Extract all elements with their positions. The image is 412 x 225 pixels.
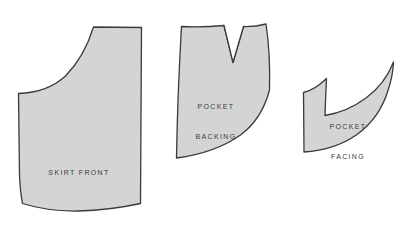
pattern-sheet: SKIRT FRONT POCKET BACKING POCKET FACING	[0, 0, 412, 225]
skirt-front-label: SKIRT FRONT	[19, 148, 139, 198]
pocket-backing-label-line-1: POCKET	[156, 102, 276, 112]
pocket-backing-label: POCKET BACKING	[156, 82, 276, 162]
pocket-backing-label-line-2: BACKING	[156, 132, 276, 142]
pocket-facing-label-line-1: POCKET	[288, 122, 408, 132]
pocket-facing-label: POCKET FACING	[288, 102, 408, 182]
skirt-front-label-line-1: SKIRT FRONT	[19, 168, 139, 178]
pocket-facing-label-line-2: FACING	[288, 152, 408, 162]
